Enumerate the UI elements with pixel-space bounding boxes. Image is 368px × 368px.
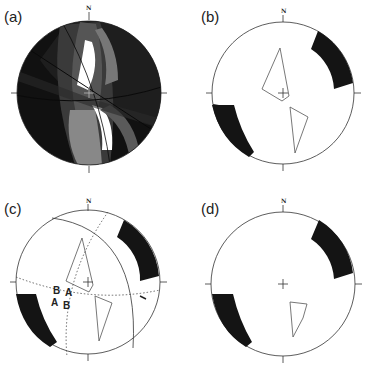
panel-b: (b) N	[201, 7, 361, 171]
panel-a-label: (a)	[4, 8, 22, 25]
figure-canvas: (a) N (b) N	[0, 0, 368, 368]
panel-d: (d) N	[201, 197, 362, 363]
north-label-d: N	[281, 197, 287, 204]
label-b-2: B	[63, 300, 70, 311]
north-label-b: N	[281, 7, 287, 14]
north-label-c: N	[86, 197, 92, 204]
north-label-a: N	[86, 4, 92, 11]
label-a-2: A	[51, 297, 58, 308]
label-a-1: A	[65, 287, 72, 298]
panel-c-label: (c)	[4, 200, 22, 217]
panel-a: (a) N	[4, 4, 170, 173]
panel-b-label: (b)	[201, 8, 219, 25]
panel-d-label: (d)	[201, 200, 219, 217]
panel-c: (c) N B A A B	[4, 197, 167, 361]
label-b-1: B	[53, 285, 60, 296]
